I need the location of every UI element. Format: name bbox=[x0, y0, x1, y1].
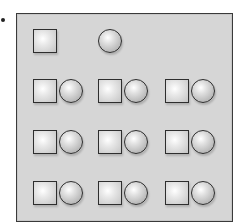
circle-icon bbox=[124, 130, 148, 154]
circle-icon bbox=[191, 79, 215, 103]
square-icon bbox=[33, 29, 57, 53]
square-icon bbox=[98, 79, 122, 103]
square-icon bbox=[98, 181, 122, 205]
circle-icon bbox=[191, 181, 215, 205]
circle-icon bbox=[124, 181, 148, 205]
square-icon bbox=[165, 181, 189, 205]
circle-icon bbox=[59, 181, 83, 205]
circle-icon bbox=[59, 79, 83, 103]
bullet-point bbox=[1, 18, 5, 22]
square-icon bbox=[98, 130, 122, 154]
square-icon bbox=[165, 79, 189, 103]
circle-icon bbox=[98, 29, 122, 53]
square-icon bbox=[33, 130, 57, 154]
square-icon bbox=[165, 130, 189, 154]
circle-icon bbox=[124, 79, 148, 103]
circle-icon bbox=[191, 130, 215, 154]
circle-icon bbox=[59, 130, 83, 154]
square-icon bbox=[33, 181, 57, 205]
square-icon bbox=[33, 79, 57, 103]
